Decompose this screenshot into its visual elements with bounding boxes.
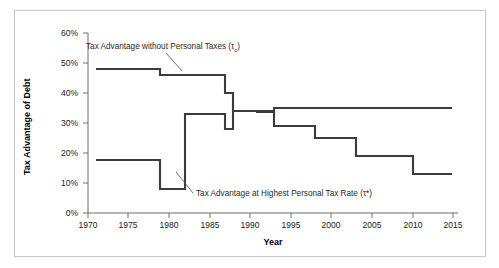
x-tick-label-1995: 1995 — [282, 220, 301, 230]
x-tick-label-1985: 1985 — [201, 220, 220, 230]
x-tick-label-1990: 1990 — [241, 220, 260, 230]
x-tick-label-1975: 1975 — [119, 220, 138, 230]
series-line-tau-star — [96, 111, 452, 189]
y-tick-label-30: 30% — [61, 118, 78, 128]
upper-annotation-tail: ) — [237, 42, 240, 51]
y-tick-label-0: 0% — [66, 208, 79, 218]
lower-series-annotation: Tax Advantage at Highest Personal Tax Ra… — [176, 172, 372, 198]
x-tick-label-2005: 2005 — [363, 220, 382, 230]
y-axis-title: Tax Advantage of Debt — [22, 78, 32, 175]
upper-series-annotation-text: Tax Advantage without Personal Taxes (τc… — [86, 42, 240, 53]
y-tick-label-50: 50% — [61, 58, 78, 68]
x-tick-label-1980: 1980 — [160, 220, 179, 230]
upper-annotation-main: Tax Advantage without Personal Taxes (τ — [86, 42, 235, 51]
y-tick-label-10: 10% — [61, 178, 78, 188]
x-axis-title: Year — [263, 237, 283, 247]
x-tick-label-1970: 1970 — [79, 220, 98, 230]
series-line-tau-c — [96, 69, 452, 111]
y-axis-ticks: 60% 50% 40% 30% 20% 10% 0% — [61, 28, 88, 218]
y-tick-label-20: 20% — [61, 148, 78, 158]
x-tick-label-2000: 2000 — [322, 220, 341, 230]
x-axis-ticks: 1970 1975 1980 1985 1990 1995 2000 2005 … — [79, 213, 463, 230]
chart-figure: 60% 50% 40% 30% 20% 10% 0% 1970 — [0, 0, 499, 268]
plot-area: 60% 50% 40% 30% 20% 10% 0% 1970 — [0, 0, 499, 268]
upper-annotation-leader — [166, 53, 182, 71]
y-tick-label-60: 60% — [61, 28, 78, 38]
x-tick-label-2010: 2010 — [404, 220, 423, 230]
y-tick-label-40: 40% — [61, 88, 78, 98]
lower-series-annotation-text: Tax Advantage at Highest Personal Tax Ra… — [196, 189, 372, 198]
x-tick-label-2015: 2015 — [444, 220, 463, 230]
chart-svg: 60% 50% 40% 30% 20% 10% 0% 1970 — [0, 0, 499, 268]
upper-series-annotation: Tax Advantage without Personal Taxes (τc… — [86, 42, 240, 71]
